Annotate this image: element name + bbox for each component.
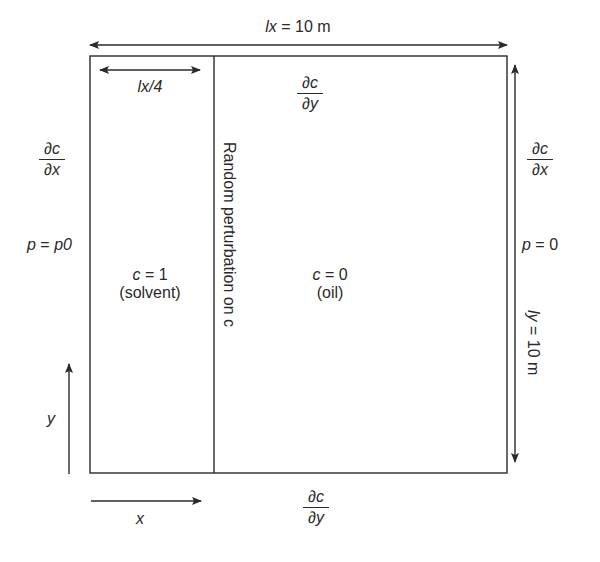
fraction-bar [39, 159, 65, 160]
left-pressure-label: p = p0 [27, 236, 72, 254]
lx-var: lx [265, 18, 277, 35]
concentration-var: c [312, 266, 320, 283]
right-bc-denominator: ∂x [532, 161, 548, 179]
ly-var: ly [525, 310, 542, 322]
top-bc-denominator: ∂y [302, 95, 318, 113]
fraction-bar [297, 93, 323, 94]
ly-value: = 10 m [525, 322, 542, 376]
concentration-value: = 1 [140, 266, 167, 283]
oil-region-label: c = 0 (oil) [312, 266, 347, 301]
pressure-value: = 0 [531, 236, 558, 253]
concentration-value: = 0 [320, 266, 347, 283]
lx-value: = 10 m [277, 18, 331, 35]
bottom-bc-denominator: ∂y [308, 509, 324, 527]
concentration-var: c [132, 266, 140, 283]
solvent-region-label: c = 1 (solvent) [119, 266, 180, 301]
pressure-var: p [27, 236, 36, 253]
left-bc-numerator: ∂c [44, 140, 60, 158]
left-bc-denominator: ∂x [44, 161, 60, 179]
right-boundary-condition: ∂c ∂x [527, 140, 553, 180]
bottom-bc-numerator: ∂c [308, 488, 324, 506]
lx4-fraction: /4 [149, 78, 162, 95]
lx4-label: lx/4 [138, 78, 163, 96]
interface-perturbation-label: Random perturbation on c [220, 142, 238, 327]
ly-label: ly = 10 m [524, 310, 542, 375]
fraction-bar [303, 507, 329, 508]
pressure-var: p [522, 236, 531, 253]
oil-name: (oil) [312, 284, 347, 302]
y-axis-label: y [47, 410, 55, 428]
left-boundary-condition: ∂c ∂x [39, 140, 65, 180]
bottom-boundary-condition: ∂c ∂y [303, 488, 329, 528]
lx4-var: lx [138, 78, 150, 95]
pressure-value: p0 [54, 236, 72, 253]
top-boundary-condition: ∂c ∂y [297, 74, 323, 114]
right-bc-numerator: ∂c [532, 140, 548, 158]
x-axis-label: x [136, 510, 144, 528]
top-bc-numerator: ∂c [302, 74, 318, 92]
domain-box [90, 56, 507, 473]
lx-label: lx = 10 m [265, 18, 330, 36]
equals: = [36, 236, 54, 253]
fraction-bar [527, 159, 553, 160]
right-pressure-label: p = 0 [522, 236, 558, 254]
solvent-name: (solvent) [119, 284, 180, 302]
